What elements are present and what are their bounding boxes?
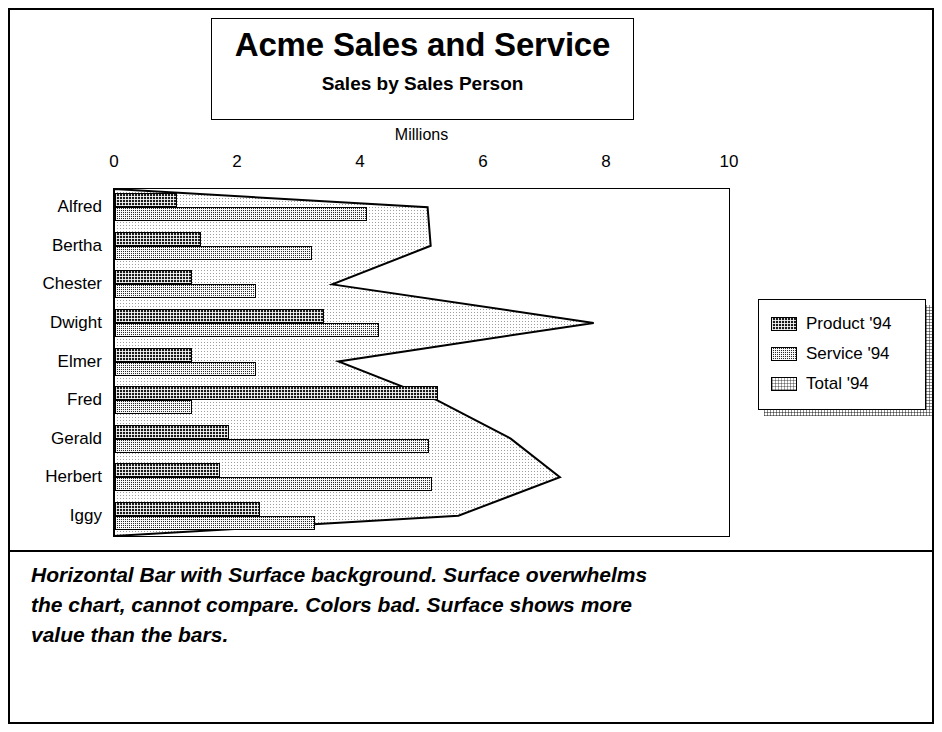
- legend-label: Service '94: [806, 344, 890, 364]
- bar-product: [115, 232, 201, 246]
- x-tick-label: 6: [478, 152, 487, 172]
- bar-product: [115, 309, 324, 323]
- bar-product: [115, 348, 192, 362]
- legend-item: Product '94: [771, 309, 925, 339]
- x-tick-label: 2: [232, 152, 241, 172]
- chart-title-box: Acme Sales and Service Sales by Sales Pe…: [211, 18, 634, 120]
- y-category-label: Elmer: [58, 352, 102, 372]
- y-category-label: Chester: [42, 274, 102, 294]
- y-category-label: Alfred: [58, 197, 102, 217]
- legend-label: Product '94: [806, 314, 891, 334]
- y-category-label: Dwight: [50, 313, 102, 333]
- y-category-label: Herbert: [45, 467, 102, 487]
- y-category-label: Gerald: [51, 429, 102, 449]
- bar-product: [115, 270, 192, 284]
- legend-swatch-icon: [771, 347, 797, 361]
- x-tick-label: 4: [355, 152, 364, 172]
- bar-product: [115, 425, 229, 439]
- plot-inner: [114, 189, 729, 536]
- bar-service: [115, 516, 315, 530]
- bar-service: [115, 400, 192, 414]
- legend-item: Total '94: [771, 369, 925, 399]
- bar-product: [115, 463, 220, 477]
- bar-product: [115, 193, 177, 207]
- bar-service: [115, 207, 367, 221]
- page-title: Acme Sales and Service: [212, 19, 633, 63]
- screenshot-page: Acme Sales and Service Sales by Sales Pe…: [0, 0, 942, 732]
- y-axis-category-labels: AlfredBerthaChesterDwightElmerFredGerald…: [10, 188, 108, 537]
- chart-subtitle: Sales by Sales Person: [212, 63, 633, 95]
- bar-service: [115, 439, 429, 453]
- plot-area: [113, 188, 730, 537]
- bar-service: [115, 246, 312, 260]
- bar-service: [115, 362, 256, 376]
- bar-service: [115, 477, 432, 491]
- legend-swatch-icon: [771, 317, 797, 331]
- bar-product: [115, 386, 438, 400]
- legend-swatch-icon: [771, 377, 797, 391]
- y-category-label: Fred: [67, 390, 102, 410]
- caption-divider: [10, 550, 932, 552]
- legend-label: Total '94: [806, 374, 869, 394]
- bar-service: [115, 323, 379, 337]
- bar-product: [115, 502, 260, 516]
- x-tick-label: 8: [601, 152, 610, 172]
- y-category-label: Iggy: [70, 506, 102, 526]
- x-tick-label: 10: [720, 152, 739, 172]
- legend-item: Service '94: [771, 339, 925, 369]
- x-tick-label: 0: [109, 152, 118, 172]
- y-category-label: Bertha: [52, 236, 102, 256]
- chart-legend: Product '94Service '94Total '94: [758, 299, 926, 410]
- x-axis-tick-labels: 0246810: [113, 152, 730, 174]
- x-axis-title: Millions: [113, 126, 730, 144]
- bar-service: [115, 284, 256, 298]
- caption-text: Horizontal Bar with Surface background. …: [31, 560, 681, 649]
